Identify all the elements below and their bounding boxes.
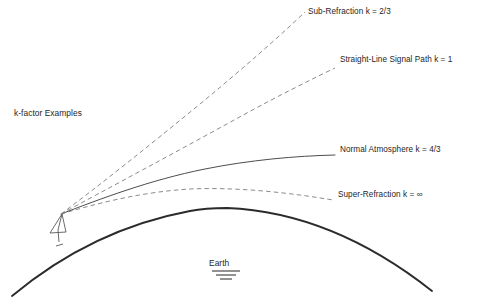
straight-line-ray bbox=[61, 68, 335, 214]
antenna-icon bbox=[50, 214, 66, 246]
page-title: k-factor Examples bbox=[14, 108, 82, 118]
label-super-refraction: Super-Refraction k = ∞ bbox=[338, 190, 423, 200]
label-straight-line-signal-path: Straight-Line Signal Path k = 1 bbox=[340, 55, 452, 65]
earth-surface-curve bbox=[12, 208, 432, 296]
ground-symbol-icon bbox=[212, 271, 240, 279]
k-factor-diagram: k-factor Examples Sub-Refraction k = 2/3… bbox=[0, 0, 479, 302]
normal-atmosphere-ray bbox=[61, 155, 335, 214]
label-normal-atmosphere: Normal Atmosphere k = 4/3 bbox=[340, 145, 441, 155]
label-sub-refraction: Sub-Refraction k = 2/3 bbox=[308, 7, 391, 17]
sub-refraction-ray bbox=[61, 12, 305, 214]
label-earth: Earth bbox=[209, 258, 229, 268]
